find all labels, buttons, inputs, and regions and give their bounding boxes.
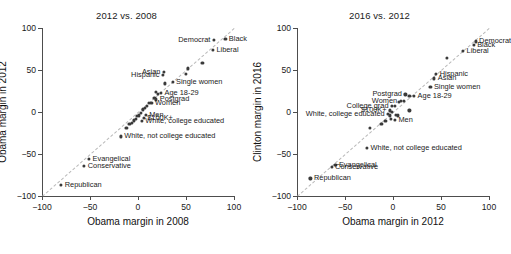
x-tick-label: 0 [391,202,396,212]
point-label: Republican [65,181,102,188]
data-point [393,118,396,121]
data-point [201,62,204,65]
x-tick [186,196,187,200]
data-point [60,183,63,186]
panel-2016-vs-2012: 2016 vs. 2012 −100−50050100−100−50050100… [253,0,506,254]
y-tick-label: 100 [267,23,291,33]
data-point [131,121,134,124]
point-label: Republican [314,175,351,182]
data-point [397,100,400,103]
data-point [125,126,128,129]
y-tick [293,28,297,29]
point-label: Liberal [216,46,238,53]
x-tick-label: 50 [181,202,191,212]
x-tick-label: 50 [436,202,446,212]
x-tick-label: 100 [227,202,241,212]
data-point [224,37,227,40]
point-label: Women [155,99,180,106]
data-point [368,126,371,129]
data-point [119,135,122,138]
y-tick [38,70,42,71]
data-point [171,80,174,83]
point-label: Democrat [178,36,210,43]
x-tick [489,196,490,200]
x-axis-title: Obama margin in 2008 [87,216,189,227]
x-tick [138,196,139,200]
data-point [83,164,86,167]
x-tick-label: 100 [482,202,496,212]
data-point [393,105,396,108]
data-point [186,67,189,70]
point-label: White, college educated [306,110,385,117]
panel-2012-vs-2008: 2012 vs. 2008 −100−50050100−100−50050100… [0,0,253,254]
data-point [408,109,411,112]
y-tick [293,154,297,155]
data-point [413,94,416,97]
data-point [365,147,368,150]
y-axis-title: Obama margin in 2012 [0,61,8,163]
y-tick-label: 50 [12,65,36,75]
y-tick [38,112,42,113]
x-tick [42,196,43,200]
point-label: White, college educated [145,118,224,125]
y-tick-label: −50 [12,149,36,159]
data-point [309,177,312,180]
data-point [330,165,333,168]
x-tick-label: −100 [287,202,306,212]
data-point [380,122,383,125]
point-label: Conservative [335,163,378,170]
data-point [404,93,407,96]
data-point [429,85,432,88]
x-tick [441,196,442,200]
y-tick-label: −100 [267,191,291,201]
data-point [461,49,464,52]
y-tick-label: 50 [267,65,291,75]
point-label: Hispanic [131,71,159,78]
y-tick-label: 0 [12,107,36,117]
y-tick-label: 100 [12,23,36,33]
x-axis-title: Obama margin in 2012 [342,216,444,227]
data-point [445,57,448,60]
data-point [161,73,164,76]
point-label: White, not college educated [124,133,215,140]
y-tick-label: 0 [267,107,291,117]
data-point [211,48,214,51]
point-label: Asian [438,75,457,82]
x-tick [345,196,346,200]
data-point [163,82,166,85]
point-label: Single women [434,83,480,90]
point-label: Men [398,116,412,123]
data-point [389,117,392,120]
data-point [212,38,215,41]
y-tick [293,112,297,113]
data-point [140,120,143,123]
point-label: Conservative [88,162,131,169]
data-point [150,101,153,104]
data-point [128,122,131,125]
point-label: Liberal [467,47,489,54]
point-label: Black [229,35,247,42]
y-tick [38,28,42,29]
x-tick-label: −50 [338,202,353,212]
y-axis-line [42,28,43,196]
panel-title: 2016 vs. 2012 [253,10,506,21]
data-point [433,77,436,80]
y-tick [38,154,42,155]
y-tick-label: −100 [12,191,36,201]
point-label: Age 18-29 [418,92,452,99]
y-tick [293,196,297,197]
point-label: Single women [176,78,222,85]
y-axis-title: Clinton margin in 2016 [252,62,263,162]
x-tick-label: 0 [136,202,141,212]
data-point [384,120,387,123]
y-axis-line [297,28,298,196]
x-tick [90,196,91,200]
x-tick [297,196,298,200]
y-tick [293,70,297,71]
data-point [184,73,187,76]
x-tick [393,196,394,200]
y-tick-label: −50 [267,149,291,159]
x-tick-label: −50 [83,202,98,212]
x-tick [234,196,235,200]
